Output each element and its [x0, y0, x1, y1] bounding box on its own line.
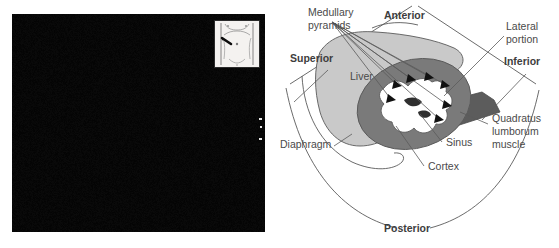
- anatomic-diagram: Superior Anterior Inferior Posterior Med…: [268, 0, 559, 248]
- label-inferior: Inferior: [504, 55, 540, 67]
- label-quadratus-lumborum-line2: lumborum: [492, 125, 539, 137]
- label-diaphragm: Diaphragm: [280, 138, 332, 150]
- anatomic-diagram-graphic: Superior Anterior Inferior Posterior Med…: [268, 0, 559, 248]
- label-sinus: Sinus: [446, 136, 472, 148]
- label-anterior: Anterior: [384, 9, 425, 21]
- ultrasound-image: [12, 14, 265, 232]
- body-position-graphic: [215, 21, 259, 67]
- label-cortex: Cortex: [428, 160, 460, 172]
- figure-ultrasound-kidney: Superior Anterior Inferior Posterior Med…: [0, 0, 559, 248]
- label-quadratus-lumborum-line1: Quadratus: [492, 112, 541, 124]
- body-position-inset: [214, 20, 260, 68]
- label-quadratus-lumborum-line3: muscle: [492, 138, 525, 150]
- label-posterior: Posterior: [384, 222, 430, 234]
- label-lateral-portion-line1: Lateral: [506, 20, 538, 32]
- label-liver: Liver: [350, 70, 373, 82]
- label-lateral-portion-line2: portion: [506, 33, 538, 45]
- label-superior: Superior: [290, 52, 333, 64]
- label-medullary-pyramids-line2: pyramids: [308, 19, 351, 31]
- label-medullary-pyramids-line1: Medullary: [308, 6, 354, 18]
